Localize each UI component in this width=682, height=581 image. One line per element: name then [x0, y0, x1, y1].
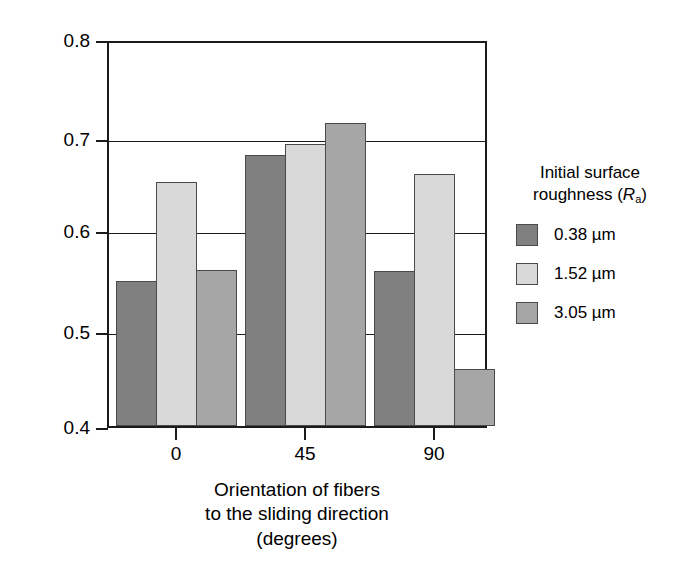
gridline-0.7: [109, 141, 485, 142]
legend-title-symbol: R: [623, 185, 635, 204]
x-axis-title-line-3: (degrees): [107, 527, 487, 551]
y-tick-label-0.5: 0.5: [26, 323, 90, 342]
legend-item-3.05um: 3.05 µm: [516, 302, 678, 324]
legend-title-subscript: a: [635, 193, 641, 205]
legend: Initial surface roughness (Ra) 0.38 µm 1…: [500, 162, 678, 324]
legend-item-1.52um: 1.52 µm: [516, 263, 678, 285]
bar-45deg-3.05um: [325, 123, 366, 426]
legend-label-1.52um: 1.52 µm: [554, 264, 616, 284]
x-tick-mark-45: [304, 428, 306, 440]
bar-45deg-0.38um: [245, 155, 286, 426]
y-tick-label-0.8: 0.8: [26, 31, 90, 50]
bar-90deg-0.38um: [374, 271, 415, 426]
legend-label-0.38um: 0.38 µm: [554, 225, 616, 245]
x-tick-mark-90: [433, 428, 435, 440]
y-tick-label-0.7: 0.7: [26, 130, 90, 149]
x-axis-title-line-2: to the sliding direction: [107, 502, 487, 526]
legend-title: Initial surface roughness (Ra): [502, 162, 678, 207]
x-tick-label-0: 0: [136, 444, 216, 463]
y-tick-label-0.4: 0.4: [26, 418, 90, 437]
bar-chart-figure: Friction coefficient 0.8 0.7 0.6 0.5 0.4…: [0, 0, 682, 581]
bar-0deg-1.52um: [156, 182, 197, 426]
legend-swatch-3.05um: [516, 302, 538, 324]
x-axis-title-line-1: Orientation of fibers: [107, 478, 487, 502]
x-axis-title: Orientation of fibers to the sliding dir…: [107, 478, 487, 551]
legend-title-suffix: ): [641, 185, 647, 204]
legend-title-line-2: roughness (Ra): [502, 184, 678, 206]
x-tick-label-45: 45: [265, 444, 345, 463]
legend-swatch-1.52um: [516, 263, 538, 285]
bar-90deg-1.52um: [414, 174, 455, 426]
y-tick-label-0.6: 0.6: [26, 222, 90, 241]
bar-0deg-0.38um: [116, 281, 157, 426]
y-tick-mark-0.4: [96, 428, 108, 430]
bar-90deg-3.05um: [454, 369, 495, 426]
legend-title-line-1: Initial surface: [502, 162, 678, 184]
x-tick-mark-0: [175, 428, 177, 440]
legend-title-prefix: roughness (: [533, 185, 623, 204]
plot-area: [107, 41, 487, 428]
x-tick-label-90: 90: [394, 444, 474, 463]
bar-45deg-1.52um: [285, 144, 326, 426]
bar-0deg-3.05um: [196, 270, 237, 426]
legend-label-3.05um: 3.05 µm: [554, 303, 616, 323]
legend-swatch-0.38um: [516, 224, 538, 246]
legend-item-0.38um: 0.38 µm: [516, 224, 678, 246]
